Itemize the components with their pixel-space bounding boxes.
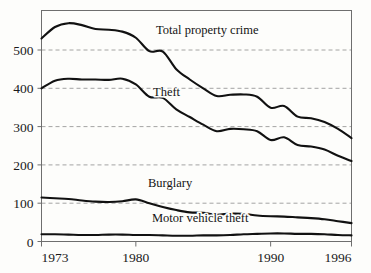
y-axis-tick-label: 200 bbox=[13, 158, 34, 173]
series-label: Total property crime bbox=[156, 23, 259, 37]
series-label: Theft bbox=[153, 85, 181, 99]
chart-svg: 0100200300400500 1973198019901996 Total … bbox=[0, 0, 371, 273]
series-line bbox=[42, 233, 352, 235]
x-axis-tick-label: 1990 bbox=[257, 250, 284, 265]
series-label: Motor vehicle theft bbox=[152, 211, 249, 225]
x-axis-tick-label: 1973 bbox=[42, 250, 69, 265]
y-axis-tick-labels: 0100200300400500 bbox=[13, 43, 41, 250]
series-label: Burglary bbox=[148, 176, 193, 190]
property-crime-line-chart: 0100200300400500 1973198019901996 Total … bbox=[0, 0, 371, 273]
y-axis-tick-label: 400 bbox=[13, 81, 34, 96]
y-axis-tick-label: 0 bbox=[27, 235, 34, 250]
x-axis-tick-label: 1980 bbox=[122, 250, 149, 265]
data-series-lines bbox=[42, 23, 352, 236]
series-line bbox=[42, 79, 352, 162]
x-axis-ticks bbox=[42, 242, 352, 247]
y-axis-tick-label: 500 bbox=[13, 43, 34, 58]
x-axis-tick-label: 1996 bbox=[325, 250, 352, 265]
y-axis-tick-label: 300 bbox=[13, 120, 34, 135]
gridlines bbox=[42, 50, 352, 203]
x-axis-tick-labels: 1973198019901996 bbox=[42, 250, 352, 265]
plot-frame bbox=[42, 11, 352, 242]
y-axis-tick-label: 100 bbox=[13, 196, 34, 211]
